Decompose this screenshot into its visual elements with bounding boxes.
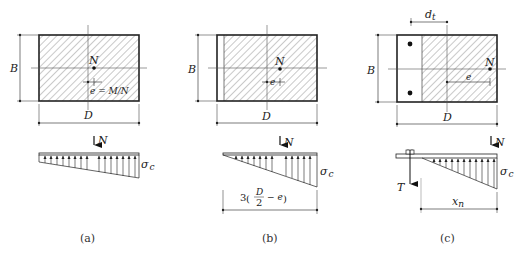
compression-length-label: 3 ( D 2 − e )	[240, 187, 287, 208]
stress-load-label: N	[494, 136, 505, 149]
svg-text:D: D	[255, 187, 263, 197]
stress-diagram-c: T N σc	[396, 136, 514, 213]
section-plan-a: N e = M/N B D	[9, 25, 147, 126]
eccentricity-label: e	[270, 77, 275, 87]
section-plan-c: N e dt B D	[366, 8, 506, 127]
anchor-bolt-icon	[408, 91, 413, 96]
section-plan-b: N e B D	[187, 25, 327, 126]
svg-text:(: (	[246, 193, 250, 204]
eccentricity-label: e = M/N	[90, 86, 130, 96]
height-label: B	[187, 63, 196, 76]
stress-load-label: N	[97, 134, 108, 147]
eccentricity-label: e	[466, 72, 471, 82]
base-plate	[396, 154, 497, 158]
load-label: N	[484, 56, 495, 69]
stress-arrows	[45, 156, 135, 177]
bolt-distance-label: dt	[425, 8, 436, 22]
panel-c: N e dt B D	[366, 8, 514, 245]
stress-diagram-a: N σc	[39, 134, 155, 178]
stress-load-label: N	[283, 136, 294, 149]
tension-label: T	[397, 181, 406, 194]
base-plate-stress-diagram: N e = M/N B D	[0, 0, 523, 255]
svg-text:− e: − e	[267, 192, 283, 202]
height-label: B	[9, 62, 18, 75]
stress-label: σc	[320, 165, 334, 179]
panel-b: N e B D	[187, 25, 334, 245]
stress-label: σc	[141, 158, 155, 172]
stress-diagram-b: N σc 3 ( D 2 − e )	[222, 136, 334, 214]
stress-label: σc	[500, 165, 514, 179]
width-label: D	[83, 109, 93, 122]
width-label: D	[261, 110, 271, 123]
svg-text:): )	[283, 193, 287, 204]
load-label: N	[274, 55, 285, 68]
svg-text:2: 2	[256, 197, 262, 208]
width-label: D	[442, 111, 452, 124]
panel-a: N e = M/N B D	[9, 25, 155, 245]
stress-arrows	[434, 159, 494, 188]
height-label: B	[366, 64, 375, 77]
neutral-axis-label: xn	[452, 195, 464, 209]
load-label: N	[88, 54, 99, 67]
anchor-bolt-icon	[408, 42, 413, 47]
caption-c: (c)	[440, 232, 455, 245]
caption-b: (b)	[262, 232, 278, 245]
caption-a: (a)	[80, 232, 95, 245]
